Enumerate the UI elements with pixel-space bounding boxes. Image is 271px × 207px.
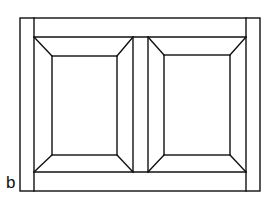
- figure-label: b: [6, 174, 15, 191]
- right-panel-inner: [164, 55, 230, 155]
- outer-frame: [20, 18, 260, 191]
- left-panel-bevel-br: [117, 155, 133, 172]
- right-panel-bevel-tr: [230, 37, 246, 55]
- right-panel-bevel-tl: [148, 37, 164, 55]
- right-panel-bevel-br: [230, 155, 246, 172]
- left-panel-inner: [52, 56, 117, 155]
- right-panel-bevel-bl: [148, 155, 164, 172]
- left-panel-bevel-bl: [34, 155, 52, 172]
- left-panel-bevel-tl: [34, 37, 52, 56]
- left-panel-bevel-tr: [117, 37, 133, 56]
- cabinet-door-drawing: [0, 0, 271, 207]
